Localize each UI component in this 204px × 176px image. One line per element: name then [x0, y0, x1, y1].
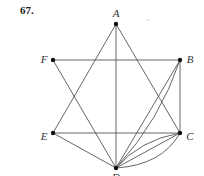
edge-e-d — [53, 133, 116, 168]
vertex-c — [178, 131, 182, 135]
graph-diagram: ABCDEF — [0, 0, 204, 176]
edge-a-c — [116, 24, 180, 133]
vertex-e — [51, 131, 55, 135]
vertex-a — [114, 22, 118, 26]
edge-a-e — [53, 24, 116, 133]
vertex-label-b: B — [187, 53, 194, 65]
vertex-label-e: E — [40, 130, 48, 142]
vertex-b — [178, 58, 182, 62]
graph-edges — [53, 24, 180, 168]
vertex-label-a: A — [112, 7, 120, 19]
edge-b-d — [116, 60, 180, 168]
vertex-label-f: F — [40, 53, 48, 65]
edge-f-d — [53, 60, 116, 168]
edge-c-d — [116, 133, 180, 168]
graph-vertices — [51, 22, 182, 170]
vertex-label-d: D — [111, 171, 120, 176]
graph-vertex-labels: ABCDEF — [40, 7, 195, 176]
vertex-label-c: C — [186, 130, 194, 142]
vertex-f — [51, 58, 55, 62]
vertex-d — [114, 166, 118, 170]
